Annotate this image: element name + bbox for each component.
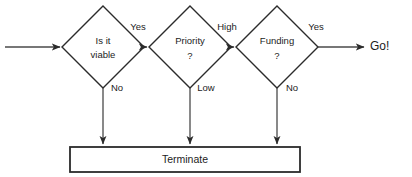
process-terminate-label: Terminate xyxy=(162,153,208,165)
decision-viable-label-line2: viable xyxy=(91,49,116,60)
edge-label-viable-no: No xyxy=(111,82,123,93)
decision-viable-label-line1: Is it xyxy=(96,35,111,46)
decision-priority-label-line1: Priority xyxy=(175,35,205,46)
end-node-go: Go! xyxy=(370,39,389,53)
edge-label-funding-no: No xyxy=(286,82,298,93)
decision-viable[interactable] xyxy=(62,6,144,88)
edge-label-viable-yes: Yes xyxy=(130,21,146,32)
edge-label-funding-yes: Yes xyxy=(308,21,324,32)
flowchart-svg: Is it viable Yes No Priority ? High Low … xyxy=(0,0,412,177)
flowchart-canvas: Is it viable Yes No Priority ? High Low … xyxy=(0,0,412,177)
decision-funding[interactable] xyxy=(236,6,318,88)
decision-priority-label-line2: ? xyxy=(187,50,192,61)
decision-funding-label-line2: ? xyxy=(274,50,279,61)
edge-label-priority-low: Low xyxy=(197,82,215,93)
decision-funding-label-line1: Funding xyxy=(260,35,294,46)
decision-priority[interactable] xyxy=(149,6,231,88)
edge-label-priority-high: High xyxy=(217,21,237,32)
